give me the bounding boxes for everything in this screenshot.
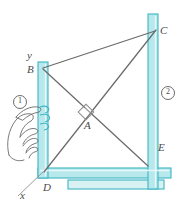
badge-member-1: 1 (13, 95, 27, 109)
structure-members (38, 14, 171, 189)
line-B-E (43, 69, 148, 166)
hand-wrist (9, 155, 24, 161)
right-angle-marker-A (78, 104, 94, 120)
label-B: B (27, 64, 34, 75)
line-B-C (43, 31, 155, 68)
label-C: C (160, 25, 167, 36)
hand-illustration (8, 107, 41, 161)
label-D: D (43, 182, 51, 193)
label-y: y (27, 50, 32, 61)
label-x: x (20, 190, 25, 201)
label-A: A (84, 120, 91, 131)
linkage-lines (43, 30, 156, 172)
mechanism-diagram: y B C A D E x 1 2 (0, 0, 178, 209)
right-vertical-post (148, 14, 158, 189)
badge-member-2: 2 (161, 86, 175, 100)
diagram-canvas (0, 0, 178, 209)
label-E: E (158, 142, 165, 153)
hand-finger-2 (20, 128, 38, 144)
line-D-C (44, 30, 156, 172)
left-vertical-post (38, 62, 48, 178)
